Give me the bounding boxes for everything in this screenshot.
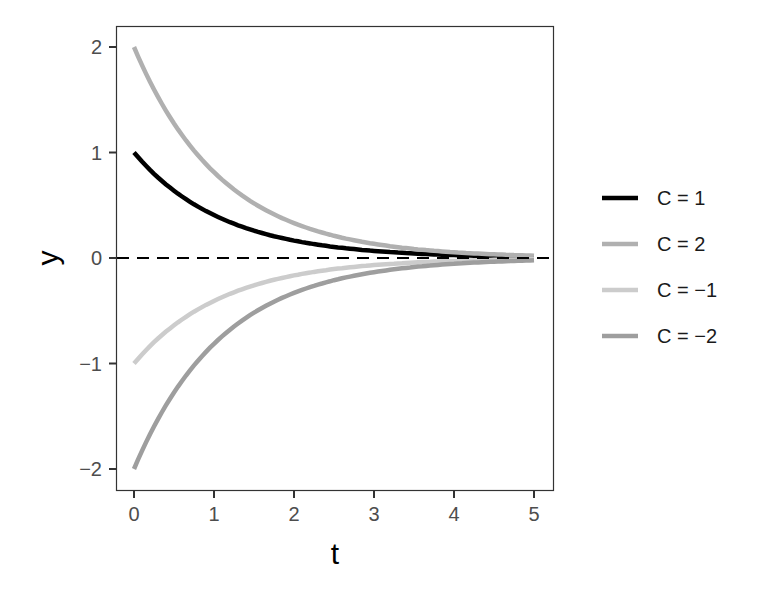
x-tick-label: 3 (368, 503, 379, 525)
legend-item: C = 1 (602, 187, 705, 209)
legend-item: C = 2 (602, 233, 705, 255)
y-axis: −2−1012 (79, 36, 116, 480)
plot-lines (134, 47, 534, 469)
legend: C = 1C = 2C = −1C = −2 (602, 187, 717, 347)
y-axis-title: y (31, 251, 64, 266)
legend-item: C = −1 (602, 279, 717, 301)
series-line-3 (134, 260, 534, 469)
y-tick-label: 1 (91, 142, 102, 164)
x-tick-label: 0 (128, 503, 139, 525)
legend-label: C = −2 (657, 325, 717, 347)
x-axis: 012345 (128, 491, 539, 525)
series-line-1 (134, 47, 534, 256)
x-axis-title: t (331, 537, 340, 570)
x-tick-label: 4 (448, 503, 459, 525)
y-tick-label: −1 (79, 353, 102, 375)
x-tick-label: 5 (528, 503, 539, 525)
y-tick-label: −2 (79, 458, 102, 480)
x-tick-label: 1 (208, 503, 219, 525)
series-line-2 (134, 259, 534, 363)
y-tick-label: 2 (91, 36, 102, 58)
line-chart: −2−1012 012345 t y C = 1C = 2C = −1C = −… (0, 0, 760, 589)
legend-label: C = −1 (657, 279, 717, 301)
x-tick-label: 2 (288, 503, 299, 525)
legend-label: C = 1 (657, 187, 705, 209)
legend-label: C = 2 (657, 233, 705, 255)
series-line-0 (134, 153, 534, 257)
y-tick-label: 0 (91, 247, 102, 269)
legend-item: C = −2 (602, 325, 717, 347)
